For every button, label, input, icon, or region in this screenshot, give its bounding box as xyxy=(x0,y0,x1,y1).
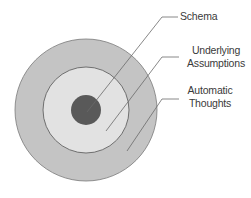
schema-label: Schema xyxy=(180,10,217,23)
underlying-assumptions-label: Underlying Assumptions xyxy=(184,44,248,70)
underlying-label-line1: Underlying xyxy=(184,44,248,57)
automatic-label-line1: Automatic xyxy=(182,84,238,97)
schema-label-text: Schema xyxy=(180,10,217,22)
underlying-label-line2: Assumptions xyxy=(184,57,248,70)
automatic-label-line2: Thoughts xyxy=(182,97,238,110)
automatic-thoughts-label: Automatic Thoughts xyxy=(182,84,238,110)
